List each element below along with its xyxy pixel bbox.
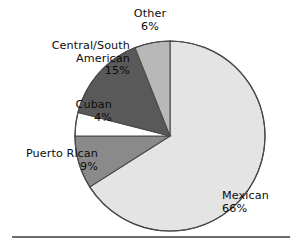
pie-label-cuban: Cuban 4% bbox=[30, 99, 112, 124]
pie-label-puerto-rican-value: 9% bbox=[0, 161, 98, 174]
pie-label-cuban-name: Cuban bbox=[76, 98, 112, 111]
pie-label-mexican: Mexican 66% bbox=[222, 190, 298, 215]
pie-label-puerto-rican: Puerto Rican 9% bbox=[0, 148, 98, 173]
pie-label-central-south-american: Central/South American 15% bbox=[18, 40, 130, 78]
pie-label-central-south-american-value: 15% bbox=[18, 65, 130, 78]
pie-label-cuban-value: 4% bbox=[30, 112, 112, 125]
figure-bottom-rule bbox=[12, 236, 290, 238]
pie-label-other: Other 6% bbox=[110, 8, 190, 33]
pie-chart-figure: Other 6% Central/South American 15% Cuba… bbox=[0, 0, 298, 245]
pie-label-mexican-name: Mexican bbox=[222, 189, 269, 202]
pie-label-other-value: 6% bbox=[110, 21, 190, 34]
pie-label-puerto-rican-name: Puerto Rican bbox=[26, 147, 98, 160]
pie-label-mexican-value: 66% bbox=[222, 203, 298, 216]
pie-label-other-name: Other bbox=[134, 7, 166, 20]
pie-label-central-south-american-name-line1: Central/South bbox=[52, 39, 130, 52]
